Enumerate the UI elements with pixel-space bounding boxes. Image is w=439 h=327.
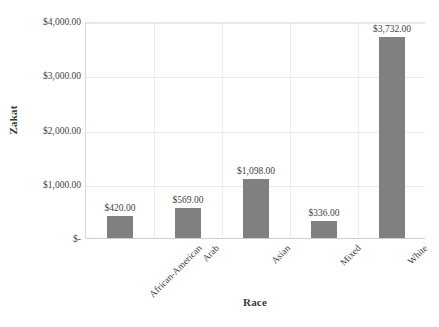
bar-data-label: $420.00 (105, 203, 136, 213)
bar[interactable] (311, 221, 337, 239)
y-axis-tick-labels: $-$1,000.00$2,000.00$3,000.00$4,000.00 (0, 0, 81, 327)
bar-group: $420.00 (86, 23, 154, 239)
bar-group: $3,732.00 (358, 23, 426, 239)
x-axis-title: Race (85, 296, 425, 308)
bar-group: $336.00 (290, 23, 358, 239)
plot-area: $420.00$569.00$1,098.00$336.00$3,732.00 (85, 22, 425, 239)
x-axis-tick-labels: African-AmericanArabAsianMixedWhite (85, 239, 425, 299)
x-axis-tick-label: Arab (201, 243, 222, 264)
y-axis-tick-label: $- (5, 234, 81, 244)
bar[interactable] (379, 37, 405, 239)
bar-data-label: $336.00 (309, 208, 340, 218)
bar[interactable] (107, 216, 133, 239)
y-axis-tick-label: $1,000.00 (5, 180, 81, 190)
x-axis-tick-label: Asian (269, 243, 292, 266)
bar-group: $569.00 (154, 23, 222, 239)
x-axis-tick-label: African-American (147, 243, 203, 299)
bar-chart: Zakat $-$1,000.00$2,000.00$3,000.00$4,00… (0, 0, 439, 327)
bar[interactable] (243, 179, 269, 239)
x-axis-tick-label: White (406, 243, 429, 266)
bar-data-label: $3,732.00 (373, 24, 411, 34)
bar-data-label: $1,098.00 (237, 166, 275, 176)
x-axis-tick-label: Mixed (338, 243, 363, 268)
y-axis-tick-label: $2,000.00 (5, 126, 81, 136)
y-axis-tick-label: $4,000.00 (5, 17, 81, 27)
y-axis-tick-label: $3,000.00 (5, 71, 81, 81)
bar-group: $1,098.00 (222, 23, 290, 239)
bar[interactable] (175, 208, 201, 239)
bar-data-label: $569.00 (173, 195, 204, 205)
